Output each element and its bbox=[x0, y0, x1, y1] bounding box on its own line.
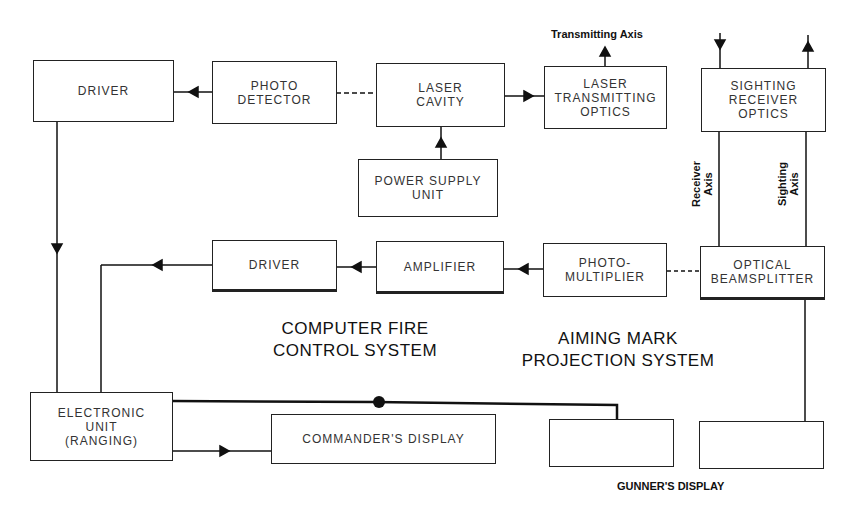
aiming-mark-projection-title: AIMING MARK PROJECTION SYSTEM bbox=[508, 328, 728, 372]
laser-cavity-block: LASER CAVITY bbox=[376, 63, 505, 127]
gunner-display-left-block bbox=[549, 419, 674, 467]
electronic-unit-label: ELECTRONIC UNIT (RANGING) bbox=[58, 406, 145, 448]
laser-cavity-label: LASER CAVITY bbox=[416, 81, 464, 109]
driver-top-block: DRIVER bbox=[33, 60, 174, 122]
sighting-axis-label: Sighting Axis bbox=[776, 154, 800, 214]
photo-detector-label: PHOTO DETECTOR bbox=[238, 79, 312, 107]
photo-detector-block: PHOTO DETECTOR bbox=[212, 61, 337, 124]
sighting-receiver-optics-label: SIGHTING RECEIVER OPTICS bbox=[729, 79, 798, 121]
optical-beamsplitter-label: OPTICAL BEAMSPLITTER bbox=[711, 258, 814, 286]
power-supply-unit-block: POWER SUPPLY UNIT bbox=[358, 159, 498, 217]
gunners-display-label: GUNNER'S DISPLAY bbox=[617, 480, 724, 492]
amplifier-block: AMPLIFIER bbox=[376, 241, 504, 294]
commanders-display-label: COMMANDER'S DISPLAY bbox=[302, 432, 464, 446]
laser-transmitting-optics-block: LASER TRANSMITTING OPTICS bbox=[544, 66, 667, 129]
amplifier-label: AMPLIFIER bbox=[404, 260, 476, 274]
photo-multiplier-block: PHOTO- MULTIPLIER bbox=[543, 243, 667, 297]
gunner-display-right-block bbox=[699, 421, 824, 469]
optical-beamsplitter-block: OPTICAL BEAMSPLITTER bbox=[700, 246, 825, 300]
driver-top-label: DRIVER bbox=[78, 84, 129, 98]
commanders-display-block: COMMANDER'S DISPLAY bbox=[271, 414, 496, 464]
transmitting-axis-label: Transmitting Axis bbox=[551, 28, 643, 40]
receiver-axis-label: Receiver Axis bbox=[690, 154, 714, 214]
sighting-receiver-optics-block: SIGHTING RECEIVER OPTICS bbox=[701, 68, 826, 132]
driver-mid-label: DRIVER bbox=[249, 258, 300, 272]
driver-mid-block: DRIVER bbox=[212, 240, 337, 292]
power-supply-unit-label: POWER SUPPLY UNIT bbox=[374, 174, 481, 202]
photo-multiplier-label: PHOTO- MULTIPLIER bbox=[565, 256, 645, 284]
laser-transmitting-optics-label: LASER TRANSMITTING OPTICS bbox=[555, 77, 657, 119]
electronic-unit-block: ELECTRONIC UNIT (RANGING) bbox=[30, 392, 173, 461]
computer-fire-control-title: COMPUTER FIRE CONTROL SYSTEM bbox=[255, 318, 455, 362]
